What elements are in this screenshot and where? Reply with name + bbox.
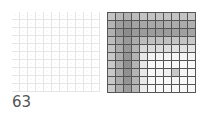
grid-cell: · xyxy=(60,60,68,68)
heatmap-cell xyxy=(148,53,156,61)
heatmap-cell xyxy=(188,45,196,53)
heatmap-cell xyxy=(116,45,124,53)
heatmap-cell xyxy=(140,13,148,21)
grid-cell: · xyxy=(12,52,20,60)
grid-cell: · xyxy=(76,76,84,84)
heatmap-cell xyxy=(180,85,188,93)
heatmap-cell xyxy=(116,13,124,21)
heatmap-cell xyxy=(180,29,188,37)
heatmap-cell xyxy=(172,61,180,69)
heatmap-cell xyxy=(180,45,188,53)
grid-cell: · xyxy=(12,44,20,52)
grid-cell: · xyxy=(68,28,76,36)
heatmap-cell xyxy=(156,37,164,45)
grid-cell: · xyxy=(44,60,52,68)
grid-cell: · xyxy=(20,52,28,60)
heatmap-cell xyxy=(148,37,156,45)
heatmap-cell xyxy=(156,13,164,21)
grid-cell: · xyxy=(84,76,92,84)
heatmap-cell xyxy=(164,69,172,77)
heatmap-cell xyxy=(140,69,148,77)
grid-cell: · xyxy=(60,52,68,60)
heatmap-cell xyxy=(164,85,172,93)
heatmap-cell xyxy=(108,45,116,53)
heatmap-cell xyxy=(156,53,164,61)
heatmap-cell xyxy=(172,85,180,93)
grid-cell: · xyxy=(92,44,100,52)
grid-cell: · xyxy=(36,20,44,28)
heatmap-cell xyxy=(156,61,164,69)
heatmap-cell xyxy=(188,29,196,37)
heatmap-cell xyxy=(164,77,172,85)
grid-cell: · xyxy=(20,20,28,28)
grid-cell: · xyxy=(12,12,20,20)
heatmap-cell xyxy=(116,61,124,69)
heatmap-cell xyxy=(116,21,124,29)
grid-cell: · xyxy=(84,20,92,28)
heatmap-cell xyxy=(148,29,156,37)
heatmap-cell xyxy=(116,69,124,77)
grid-cell: · xyxy=(36,28,44,36)
grid-cell: · xyxy=(84,52,92,60)
grid-cell: · xyxy=(68,36,76,44)
grid-cell: · xyxy=(44,68,52,76)
grid-cell: · xyxy=(20,76,28,84)
heatmap-cell xyxy=(132,77,140,85)
grid-cell: · xyxy=(76,28,84,36)
grid-cell: · xyxy=(28,20,36,28)
grid-cell: · xyxy=(44,28,52,36)
heatmap-cell xyxy=(188,13,196,21)
grid-cell: · xyxy=(68,76,76,84)
grid-cell: · xyxy=(20,36,28,44)
heatmap-cell xyxy=(124,85,132,93)
heatmap-cell xyxy=(140,77,148,85)
grid-cell: · xyxy=(60,12,68,20)
grid-cell: · xyxy=(28,36,36,44)
heatmap-cell xyxy=(180,21,188,29)
heatmap-cell xyxy=(140,45,148,53)
grid-cell: · xyxy=(84,60,92,68)
heatmap-cell xyxy=(172,21,180,29)
grid-cell: · xyxy=(36,44,44,52)
heatmap-cell xyxy=(156,29,164,37)
heatmap-cell xyxy=(124,61,132,69)
grid-cell: · xyxy=(36,76,44,84)
grid-cell: · xyxy=(52,68,60,76)
grid-cell: · xyxy=(28,84,36,92)
grid-cell: · xyxy=(12,20,20,28)
heatmap-cell xyxy=(140,21,148,29)
grid-cell: · xyxy=(28,60,36,68)
heatmap-cell xyxy=(172,53,180,61)
heatmap-cell xyxy=(132,85,140,93)
grid-cell: · xyxy=(76,60,84,68)
heatmap-cell xyxy=(108,69,116,77)
grid-cell: · xyxy=(92,20,100,28)
heatmap-cell xyxy=(188,61,196,69)
grid-cell: · xyxy=(92,84,100,92)
grid-cell: · xyxy=(44,12,52,20)
heatmap-cell xyxy=(116,29,124,37)
heatmap-cell xyxy=(116,53,124,61)
grid-cell: · xyxy=(60,84,68,92)
grid-cell: · xyxy=(12,76,20,84)
grid-cell: · xyxy=(60,76,68,84)
grid-cell: · xyxy=(44,36,52,44)
heatmap-cell xyxy=(148,69,156,77)
heatmap-cell xyxy=(164,21,172,29)
grid-cell: · xyxy=(68,52,76,60)
heatmap-cell xyxy=(180,53,188,61)
grid-cell: · xyxy=(20,12,28,20)
heatmap-cell xyxy=(164,53,172,61)
grid-cell: · xyxy=(20,68,28,76)
grid-cell: · xyxy=(36,36,44,44)
grid-cell: · xyxy=(20,60,28,68)
heatmap-cell xyxy=(148,13,156,21)
heatmap-cell xyxy=(188,69,196,77)
heatmap-cell xyxy=(132,53,140,61)
grid-cell: · xyxy=(12,84,20,92)
heatmap-cell xyxy=(132,69,140,77)
heatmap-cell xyxy=(140,85,148,93)
heatmap-cell xyxy=(124,29,132,37)
grid-cell: · xyxy=(44,84,52,92)
heatmap-cell xyxy=(148,45,156,53)
